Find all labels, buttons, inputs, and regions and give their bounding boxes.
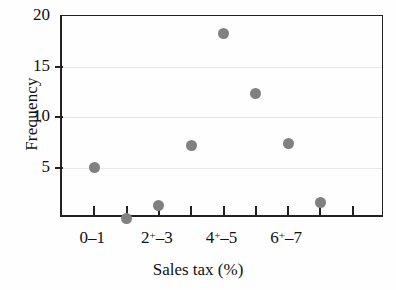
- data-point: [89, 162, 100, 173]
- x-axis-tick: [352, 206, 354, 215]
- scatter-plot-figure: Frequency 5101520 0–12+–34+–56+–7 Sales …: [0, 0, 396, 290]
- x-axis-title: Sales tax (%): [0, 260, 396, 280]
- data-point: [218, 28, 229, 39]
- y-axis-tick: [55, 167, 63, 169]
- gridline: [62, 117, 382, 118]
- y-axis-tick: [55, 66, 63, 68]
- x-axis-tick-label: 2+–3: [141, 229, 173, 246]
- x-axis-tick-label: 6+–7: [270, 229, 302, 246]
- data-point: [153, 200, 164, 211]
- x-axis-tick: [255, 206, 257, 215]
- x-axis-tick: [287, 206, 289, 215]
- data-point: [121, 213, 132, 224]
- x-axis-tick: [190, 206, 192, 215]
- data-point: [315, 197, 326, 208]
- gridline: [62, 67, 382, 68]
- y-axis-tick: [55, 116, 63, 118]
- y-axis-tick-label: 20: [16, 6, 50, 23]
- data-point: [186, 140, 197, 151]
- x-axis-tick: [223, 206, 225, 215]
- data-point: [250, 88, 261, 99]
- gridline: [62, 168, 382, 169]
- y-axis-tick-label: 15: [16, 57, 50, 74]
- x-axis-tick-label: 4+–5: [206, 229, 238, 246]
- plot-area: [60, 15, 383, 217]
- x-axis-tick: [93, 206, 95, 215]
- x-axis-tick-label: 0–1: [80, 229, 106, 246]
- data-point: [283, 138, 294, 149]
- y-axis-tick-label: 10: [16, 107, 50, 124]
- y-axis-tick-label: 5: [16, 158, 50, 175]
